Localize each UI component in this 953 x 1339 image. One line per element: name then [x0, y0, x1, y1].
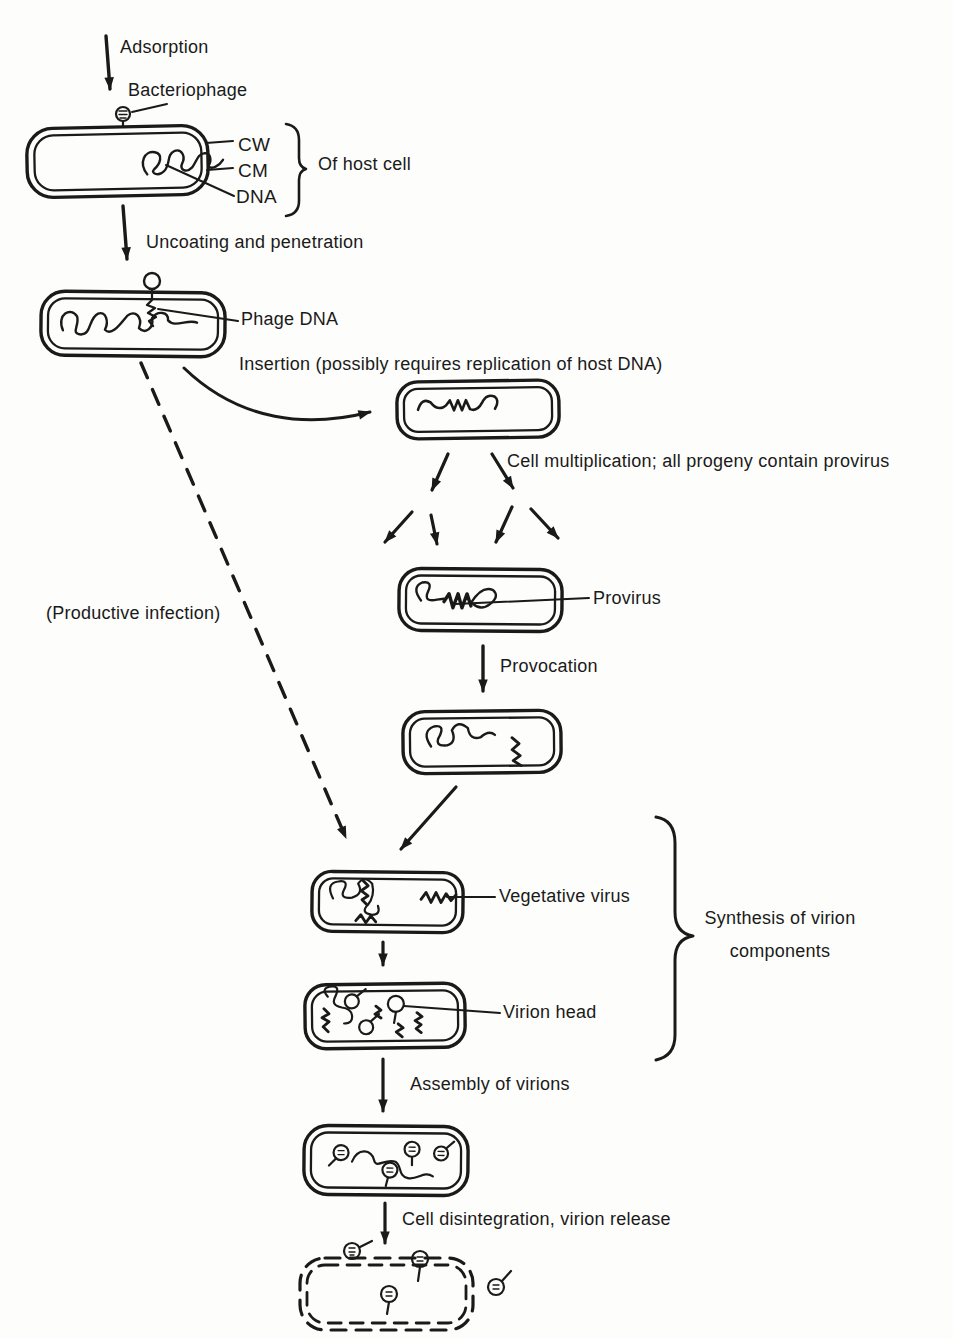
insertion-arrow [184, 368, 370, 420]
phage-on-cell-icon [116, 107, 130, 127]
penetrated-cell-drawing [41, 291, 226, 357]
integrated-cell-drawing [397, 380, 560, 439]
label-virion-head: Virion head [503, 1002, 597, 1023]
assembled-cell-drawing [304, 1125, 469, 1195]
label-synthesis-line2: components [660, 941, 900, 962]
label-provocation: Provocation [500, 656, 598, 677]
bacteriophage-pointer-line [132, 104, 167, 112]
label-productive-infection: (Productive infection) [46, 603, 221, 624]
label-phage-dna: Phage DNA [241, 309, 338, 330]
label-uncoating: Uncoating and penetration [146, 232, 363, 253]
productive-infection-dashed-arrow [141, 363, 346, 838]
adsorption-arrow [106, 36, 110, 89]
disintegrating-cell-drawing [300, 1241, 511, 1330]
virion-head-cell-drawing [305, 983, 466, 1049]
diagram-page: Adsorption Bacteriophage CW CM DNA Of ho… [0, 0, 953, 1339]
label-cw: CW [238, 134, 270, 156]
diagram-canvas [0, 0, 953, 1339]
label-cm: CM [238, 160, 268, 182]
label-cell-disintegration: Cell disintegration, virion release [402, 1209, 671, 1230]
label-bacteriophage: Bacteriophage [128, 80, 247, 101]
label-vegetative-virus: Vegetative virus [499, 886, 630, 907]
uncoating-arrow [123, 206, 127, 259]
provoked-to-vegetative-arrow [401, 787, 456, 849]
label-of-host-cell: Of host cell [318, 154, 411, 175]
label-dna: DNA [236, 186, 277, 208]
label-assembly: Assembly of virions [410, 1074, 570, 1095]
host-cell-drawing [26, 125, 223, 198]
label-synthesis-of-virion-components: Synthesis of virion components [660, 908, 900, 961]
label-provirus: Provirus [593, 588, 661, 609]
host-cell-brace [286, 124, 306, 216]
provoked-cell-drawing [403, 710, 562, 774]
vegetative-cell-drawing [312, 871, 464, 933]
label-synthesis-line1: Synthesis of virion [660, 908, 900, 929]
label-insertion: Insertion (possibly requires replication… [239, 354, 662, 375]
label-adsorption: Adsorption [120, 37, 209, 58]
label-cell-multiplication: Cell multiplication; all progeny contain… [507, 451, 889, 472]
